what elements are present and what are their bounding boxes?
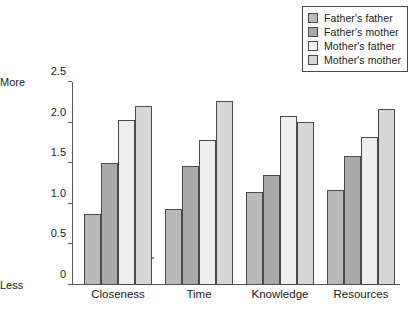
y-tick-1.5 (68, 162, 72, 163)
bar-knowledge-mother-s-father (280, 116, 297, 285)
bar-time-father-s-mother (182, 166, 199, 285)
bar-time-mother-s-mother (216, 101, 233, 285)
bar-closeness-father-s-father (84, 214, 101, 285)
bar-closeness-mother-s-mother (135, 106, 152, 285)
y-tick-label-1.0: 1.0 (26, 187, 66, 198)
plot-area: ClosenessTimeKnowledgeResources (72, 82, 400, 285)
y-tick-label-0.5: 0.5 (26, 228, 66, 239)
legend-item-mothers-mother: Mother's mother (308, 53, 401, 67)
bar-time-mother-s-father (199, 140, 216, 285)
y-tick-2.0 (68, 122, 72, 123)
bar-knowledge-mother-s-mother (297, 122, 314, 285)
legend-swatch-fathers-mother (308, 27, 318, 37)
y-axis-endcap-more: More (0, 77, 42, 88)
bar-group-resources (327, 82, 395, 285)
bar-group-knowledge (246, 82, 314, 285)
bar-resources-father-s-father (327, 190, 344, 285)
bar-resources-mother-s-father (361, 137, 378, 285)
y-tick-label-2.0: 2.0 (26, 106, 66, 117)
legend-label-mothers-father: Mother's father (324, 39, 395, 53)
y-tick-label-2.5: 2.5 (26, 66, 66, 77)
bar-closeness-mother-s-father (118, 120, 135, 285)
legend-item-fathers-mother: Father's mother (308, 25, 401, 39)
bar-group-time (165, 82, 233, 285)
legend-label-fathers-father: Father's father (324, 11, 393, 25)
y-axis-labels: 00.51.01.52.02.5 (26, 82, 66, 285)
y-tick-label-1.5: 1.5 (26, 147, 66, 158)
legend-swatch-fathers-father (308, 13, 318, 23)
legend-label-fathers-mother: Father's mother (324, 25, 399, 39)
legend-swatch-mothers-father (308, 41, 318, 51)
chart-legend: Father's father Father's mother Mother's… (302, 6, 408, 72)
legend-item-fathers-father: Father's father (308, 11, 401, 25)
bar-knowledge-father-s-father (246, 192, 263, 285)
legend-item-mothers-father: Mother's father (308, 39, 401, 53)
bar-resources-father-s-mother (344, 156, 361, 285)
legend-label-mothers-mother: Mother's mother (324, 53, 401, 67)
y-tick-2.5 (68, 81, 72, 82)
bar-resources-mother-s-mother (378, 109, 395, 285)
bar-closeness-father-s-mother (101, 163, 118, 285)
bar-group-closeness (84, 82, 152, 285)
y-tick-1.0 (68, 203, 72, 204)
legend-swatch-mothers-mother (308, 55, 318, 65)
bar-chart: Father's father Father's mother Mother's… (0, 0, 414, 309)
y-axis-endcap-less: Less (0, 280, 42, 291)
y-tick-0.5 (68, 243, 72, 244)
bar-knowledge-father-s-mother (263, 175, 280, 285)
scan-artifact-speck (152, 257, 154, 259)
bar-time-father-s-father (165, 209, 182, 285)
y-tick-0 (68, 284, 72, 285)
y-axis-line (72, 82, 73, 285)
x-axis-label-resources: Resources (313, 289, 409, 301)
y-tick-label-0: 0 (26, 269, 66, 280)
